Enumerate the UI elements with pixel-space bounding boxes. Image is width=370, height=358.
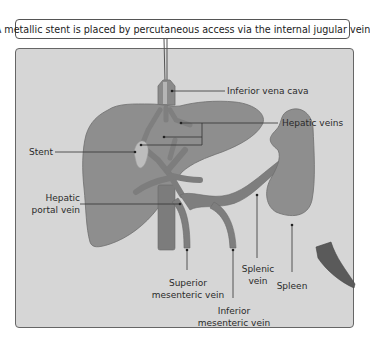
- label-inferior-vena-cava: Inferior vena cava: [227, 85, 309, 97]
- label-spleen: Spleen: [272, 280, 312, 292]
- inferior-mesenteric-shape: [210, 202, 236, 248]
- label-inferior-mesenteric-vein: Inferior mesenteric vein: [196, 305, 272, 329]
- label-stent: Stent: [29, 146, 53, 158]
- ivc-lower: [158, 185, 175, 250]
- scrap-object: [316, 242, 355, 288]
- label-hepatic-veins: Hepatic veins: [282, 117, 343, 129]
- catheter-wire: [164, 39, 165, 82]
- label-hepatic-portal-vein: Hepatic portal vein: [25, 192, 80, 216]
- label-superior-mesenteric-vein: Superior mesenteric vein: [150, 277, 226, 301]
